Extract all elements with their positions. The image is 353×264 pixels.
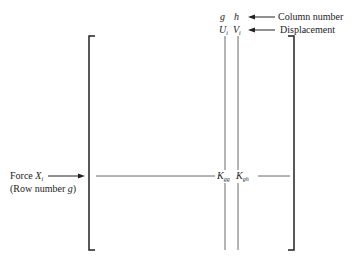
column-h-label: h [234,11,239,22]
displacement-label: Displacement [280,24,335,35]
force-arrow-head [78,174,85,179]
left-bracket [89,36,95,250]
displacement-arrow-head [248,28,255,33]
matrix-diagram-lines [0,0,353,264]
column-g-label: g [220,11,225,22]
k-gh-label: Kgh [236,170,249,185]
displacement-u-label: Ui [219,24,228,39]
right-bracket [288,36,294,250]
column-number-label: Column number [278,11,343,22]
column-arrow-head [248,15,255,20]
row-number-label: (Row number g) [10,183,76,194]
displacement-v-label: Vi [233,24,241,39]
k-gg-label: Kgg [217,170,230,185]
